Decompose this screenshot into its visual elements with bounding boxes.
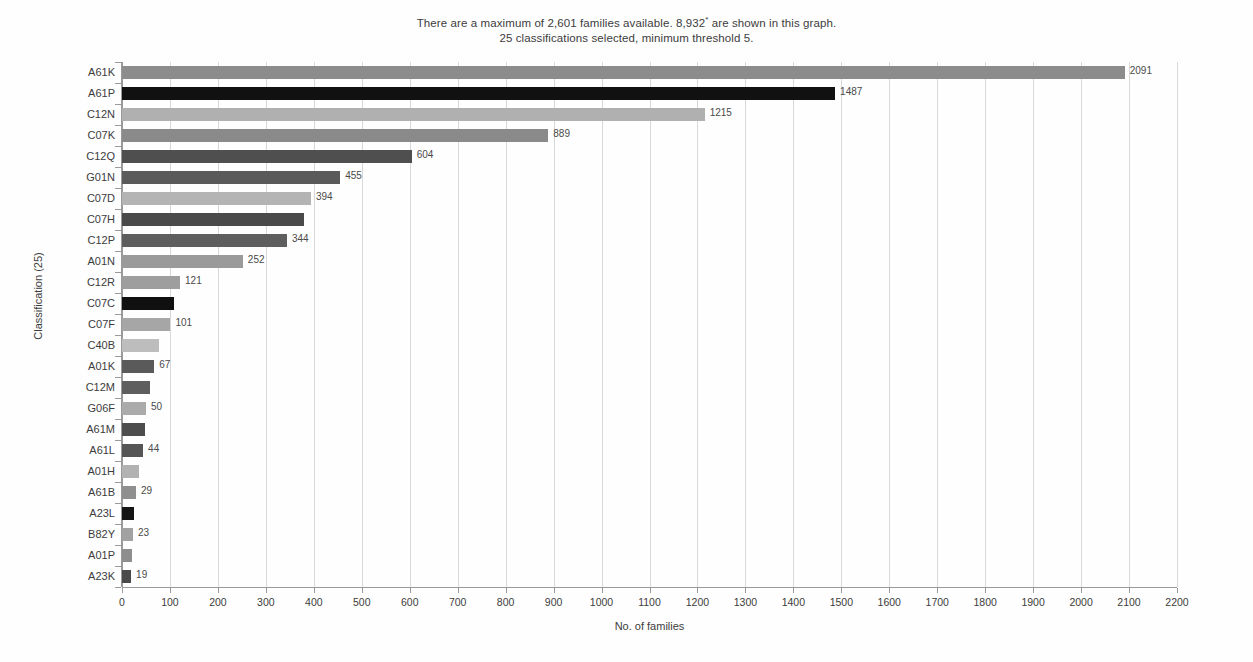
bar-C12R[interactable] xyxy=(122,276,180,289)
bar-row[interactable] xyxy=(122,507,1177,528)
bar-row[interactable]: 604 xyxy=(122,150,1177,171)
bar-row[interactable]: 44 xyxy=(122,444,1177,465)
bar-row[interactable]: 252 xyxy=(122,255,1177,276)
y-axis-tick-label-A01K: A01K xyxy=(5,360,115,372)
bar-C12Q[interactable] xyxy=(122,150,412,163)
chart-title-line-2: 25 classifications selected, minimum thr… xyxy=(0,31,1253,46)
bar-A23L[interactable] xyxy=(122,507,134,520)
y-axis-tick xyxy=(115,524,121,525)
y-axis-tick-label-A61P: A61P xyxy=(5,87,115,99)
y-axis-tick xyxy=(115,335,121,336)
x-axis-tick-label-1600: 1600 xyxy=(878,596,901,608)
bar-row[interactable]: 29 xyxy=(122,486,1177,507)
bar-A61M[interactable] xyxy=(122,423,145,436)
x-axis-tick-label-600: 600 xyxy=(401,596,419,608)
x-axis-tick xyxy=(170,588,171,593)
bar-row[interactable]: 101 xyxy=(122,318,1177,339)
bar-C12N[interactable] xyxy=(122,108,705,121)
bar-A01P[interactable] xyxy=(122,549,132,562)
bar-C07H[interactable] xyxy=(122,213,304,226)
y-axis-tick-label-A61B: A61B xyxy=(5,486,115,498)
bar-row[interactable]: 50 xyxy=(122,402,1177,423)
x-axis-tick xyxy=(697,588,698,593)
y-axis-tick-label-C07C: C07C xyxy=(5,297,115,309)
x-axis-tick xyxy=(1033,588,1034,593)
x-axis-tick-label-2000: 2000 xyxy=(1069,596,1092,608)
bar-G06F[interactable] xyxy=(122,402,146,415)
bar-A01K[interactable] xyxy=(122,360,154,373)
bar-value-label: 2091 xyxy=(1130,64,1152,77)
x-axis-tick-label-200: 200 xyxy=(209,596,227,608)
bar-A61B[interactable] xyxy=(122,486,136,499)
bar-row[interactable]: 2091 xyxy=(122,66,1177,87)
x-axis-tick xyxy=(841,588,842,593)
bar-row[interactable] xyxy=(122,465,1177,486)
y-axis-tick-label-B82Y: B82Y xyxy=(5,528,115,540)
bar-C12M[interactable] xyxy=(122,381,150,394)
bar-value-label: 67 xyxy=(159,358,170,371)
bar-row[interactable] xyxy=(122,339,1177,360)
bar-C40B[interactable] xyxy=(122,339,159,352)
bar-value-label: 344 xyxy=(292,232,309,245)
bar-C07D[interactable] xyxy=(122,192,311,205)
bar-row[interactable]: 23 xyxy=(122,528,1177,549)
y-axis-tick xyxy=(115,293,121,294)
bar-row[interactable]: 455 xyxy=(122,171,1177,192)
x-axis-tick-label-1900: 1900 xyxy=(1021,596,1044,608)
bar-row[interactable]: 1215 xyxy=(122,108,1177,129)
bar-A23K[interactable] xyxy=(122,570,131,583)
x-axis-tick xyxy=(793,588,794,593)
bar-G01N[interactable] xyxy=(122,171,340,184)
x-axis-tick xyxy=(985,588,986,593)
bar-row[interactable]: 394 xyxy=(122,192,1177,213)
x-axis-tick-label-1700: 1700 xyxy=(926,596,949,608)
bar-B82Y[interactable] xyxy=(122,528,133,541)
y-axis-tick-label-C12N: C12N xyxy=(5,108,115,120)
bar-value-label: 394 xyxy=(316,190,333,203)
bar-A61L[interactable] xyxy=(122,444,143,457)
bar-row[interactable] xyxy=(122,381,1177,402)
bar-value-label: 23 xyxy=(138,526,149,539)
y-axis-tick-label-A23K: A23K xyxy=(5,570,115,582)
x-axis-tick-label-900: 900 xyxy=(545,596,563,608)
bar-row[interactable]: 1487 xyxy=(122,87,1177,108)
bar-row[interactable]: 889 xyxy=(122,129,1177,150)
x-axis-tick-label-100: 100 xyxy=(161,596,179,608)
chart-title: There are a maximum of 2,601 families av… xyxy=(0,12,1253,46)
bar-C07K[interactable] xyxy=(122,129,548,142)
bar-row[interactable]: 67 xyxy=(122,360,1177,381)
y-axis-tick xyxy=(115,398,121,399)
y-axis-tick xyxy=(115,188,121,189)
y-axis-tick xyxy=(115,482,121,483)
y-axis-tick-label-C07F: C07F xyxy=(5,318,115,330)
bar-A01H[interactable] xyxy=(122,465,139,478)
y-axis-tick xyxy=(115,545,121,546)
y-axis-tick-label-A01P: A01P xyxy=(5,549,115,561)
bar-row[interactable] xyxy=(122,423,1177,444)
y-axis-tick-label-C07D: C07D xyxy=(5,192,115,204)
x-axis-tick xyxy=(410,588,411,593)
bar-row[interactable] xyxy=(122,213,1177,234)
y-axis-tick-label-C12Q: C12Q xyxy=(5,150,115,162)
y-axis-tick-label-C12P: C12P xyxy=(5,234,115,246)
bar-row[interactable]: 344 xyxy=(122,234,1177,255)
bar-A01N[interactable] xyxy=(122,255,243,268)
bar-row[interactable]: 121 xyxy=(122,276,1177,297)
bar-C12P[interactable] xyxy=(122,234,287,247)
y-axis-tick-label-C07K: C07K xyxy=(5,129,115,141)
y-axis-tick xyxy=(115,503,121,504)
bar-A61P[interactable] xyxy=(122,87,835,100)
bar-row[interactable] xyxy=(122,549,1177,570)
bar-row[interactable] xyxy=(122,297,1177,318)
x-axis-tick-label-800: 800 xyxy=(497,596,515,608)
bar-C07C[interactable] xyxy=(122,297,174,310)
y-axis-tick-label-C07H: C07H xyxy=(5,213,115,225)
y-axis-tick xyxy=(115,146,121,147)
bar-A61K[interactable] xyxy=(122,66,1125,79)
bar-value-label: 252 xyxy=(248,253,265,266)
y-axis-tick xyxy=(115,230,121,231)
bar-C07F[interactable] xyxy=(122,318,170,331)
y-axis-tick xyxy=(115,377,121,378)
y-axis-tick xyxy=(115,440,121,441)
bar-value-label: 19 xyxy=(136,568,147,581)
